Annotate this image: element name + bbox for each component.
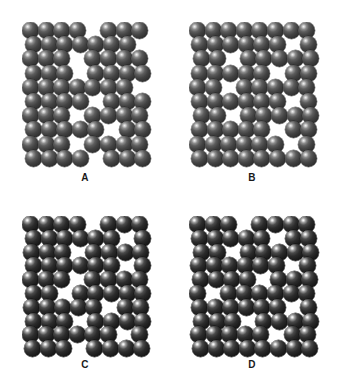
sphere <box>208 340 225 357</box>
sphere-packing-figure: ABCD <box>0 0 339 386</box>
sphere <box>134 150 151 167</box>
panel-d-label: D <box>189 359 315 371</box>
sphere <box>222 150 239 167</box>
sphere <box>131 22 148 39</box>
panel-a <box>22 22 164 181</box>
sphere <box>285 150 302 167</box>
sphere <box>72 36 89 53</box>
panel-d-lattice <box>189 216 331 371</box>
sphere <box>283 79 300 96</box>
sphere <box>222 230 239 247</box>
sphere <box>24 340 41 357</box>
sphere <box>100 107 117 124</box>
sphere <box>86 340 103 357</box>
sphere <box>72 150 89 167</box>
sphere <box>267 216 284 233</box>
sphere <box>119 150 136 167</box>
sphere <box>285 121 302 138</box>
sphere <box>283 22 300 39</box>
sphere <box>69 326 86 343</box>
panel-c <box>22 216 164 371</box>
sphere <box>253 150 270 167</box>
sphere <box>40 340 57 357</box>
sphere <box>222 36 239 53</box>
sphere <box>286 340 303 357</box>
sphere <box>223 340 240 357</box>
sphere <box>271 313 288 330</box>
sphere <box>41 150 58 167</box>
sphere <box>192 340 209 357</box>
sphere <box>300 150 317 167</box>
sphere <box>70 299 87 316</box>
panel-b <box>189 22 331 181</box>
panel-c-label: C <box>22 359 148 371</box>
sphere <box>56 150 73 167</box>
sphere <box>301 340 318 357</box>
sphere <box>222 93 239 110</box>
panel-a-label: A <box>22 172 148 184</box>
sphere <box>252 257 269 274</box>
sphere <box>238 150 255 167</box>
sphere <box>271 107 288 124</box>
sphere <box>103 150 120 167</box>
sphere <box>207 150 224 167</box>
sphere <box>238 299 255 316</box>
sphere <box>25 150 42 167</box>
sphere <box>283 285 300 302</box>
sphere <box>271 50 288 67</box>
panel-b-lattice <box>189 22 331 181</box>
sphere <box>191 150 208 167</box>
panel-a-lattice <box>22 22 164 181</box>
sphere <box>239 340 256 357</box>
sphere <box>84 136 101 153</box>
sphere <box>222 65 239 82</box>
sphere <box>53 271 70 288</box>
panel-d <box>189 216 331 371</box>
panel-b-label: B <box>189 172 315 184</box>
sphere <box>72 121 89 138</box>
sphere <box>133 340 150 357</box>
sphere <box>72 93 89 110</box>
panel-c-lattice <box>22 216 164 371</box>
sphere <box>134 65 151 82</box>
sphere <box>269 150 286 167</box>
sphere <box>55 340 72 357</box>
sphere <box>254 340 271 357</box>
sphere <box>117 244 134 261</box>
sphere <box>270 340 287 357</box>
sphere <box>72 230 89 247</box>
sphere <box>116 216 133 233</box>
sphere <box>103 285 120 302</box>
sphere <box>208 271 225 288</box>
sphere <box>118 340 135 357</box>
sphere <box>84 79 101 96</box>
sphere <box>102 340 119 357</box>
